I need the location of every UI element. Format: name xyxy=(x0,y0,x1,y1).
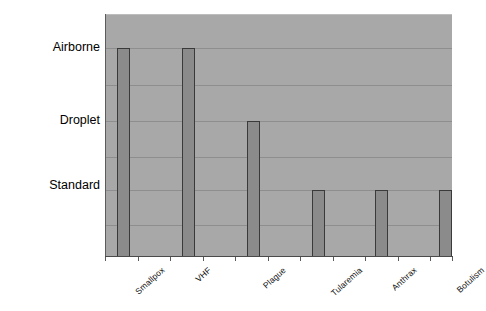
gridline xyxy=(106,85,452,86)
gridline xyxy=(106,121,452,122)
bar-vhf[interactable] xyxy=(182,48,195,257)
x-tick-mark xyxy=(452,257,453,261)
y-axis-line xyxy=(105,14,106,257)
x-tick-label-plague: Plague xyxy=(261,265,288,291)
x-tick-label-vhf: VHF xyxy=(193,265,213,284)
plot-area xyxy=(105,14,452,256)
bar-tularemia[interactable] xyxy=(312,190,325,257)
x-tick-mark xyxy=(333,257,334,261)
x-tick-label-tularemia: Tularemia xyxy=(329,265,364,298)
gridline xyxy=(106,190,452,191)
x-tick-mark xyxy=(398,257,399,261)
y-tick-label-droplet: Droplet xyxy=(4,113,100,127)
bar-anthrax[interactable] xyxy=(375,190,388,257)
x-tick-label-anthrax: Anthrax xyxy=(390,265,419,293)
x-tick-mark xyxy=(170,257,171,261)
x-tick-mark xyxy=(268,257,269,261)
x-tick-mark xyxy=(235,257,236,261)
y-axis-labels: Airborne Droplet Standard xyxy=(0,0,100,311)
bar-botulism[interactable] xyxy=(439,190,452,257)
x-tick-mark xyxy=(365,257,366,261)
x-tick-label-smallpox: Smallpox xyxy=(133,265,166,296)
x-tick-mark xyxy=(105,257,106,261)
x-tick-mark xyxy=(430,257,431,261)
y-tick-label-standard: Standard xyxy=(4,178,100,192)
x-tick-mark xyxy=(300,257,301,261)
gridline xyxy=(106,48,452,49)
gridline xyxy=(106,157,452,158)
bar-plague[interactable] xyxy=(247,121,260,257)
bar-smallpox[interactable] xyxy=(117,48,130,257)
x-tick-mark xyxy=(138,257,139,261)
y-tick-label-airborne: Airborne xyxy=(4,40,100,54)
gridline xyxy=(106,225,452,226)
x-tick-label-botulism: Botulism xyxy=(455,265,486,295)
x-tick-mark xyxy=(203,257,204,261)
x-axis-line xyxy=(105,256,453,257)
